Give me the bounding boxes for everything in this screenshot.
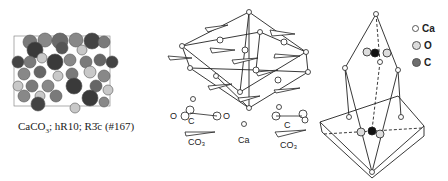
o-atom-icon [412,41,421,50]
packed-atoms-illustration [0,0,160,181]
unit-cell-packing-panel: CaCO3; hR10; R3̄c (#167) [0,0,160,181]
legend-item-c: C [412,54,435,71]
c-label-right: C [284,120,291,130]
ca-label: Ca [238,135,250,145]
c-atom-icon [412,58,421,67]
o-label-left: O [170,111,177,121]
co3-label-right: CO₃ [280,140,297,150]
atom-legend: Ca O C [412,20,435,71]
ca-atom-icon [412,25,419,32]
legend-item-o: O [412,37,435,54]
legend-item-ca: Ca [412,20,435,37]
structure-caption: CaCO3; hR10; R3̄c (#167) [18,120,134,135]
co3-label-left: CO₃ [188,137,205,147]
c-label-left: C [188,116,195,126]
o-label-right: O [223,111,230,121]
